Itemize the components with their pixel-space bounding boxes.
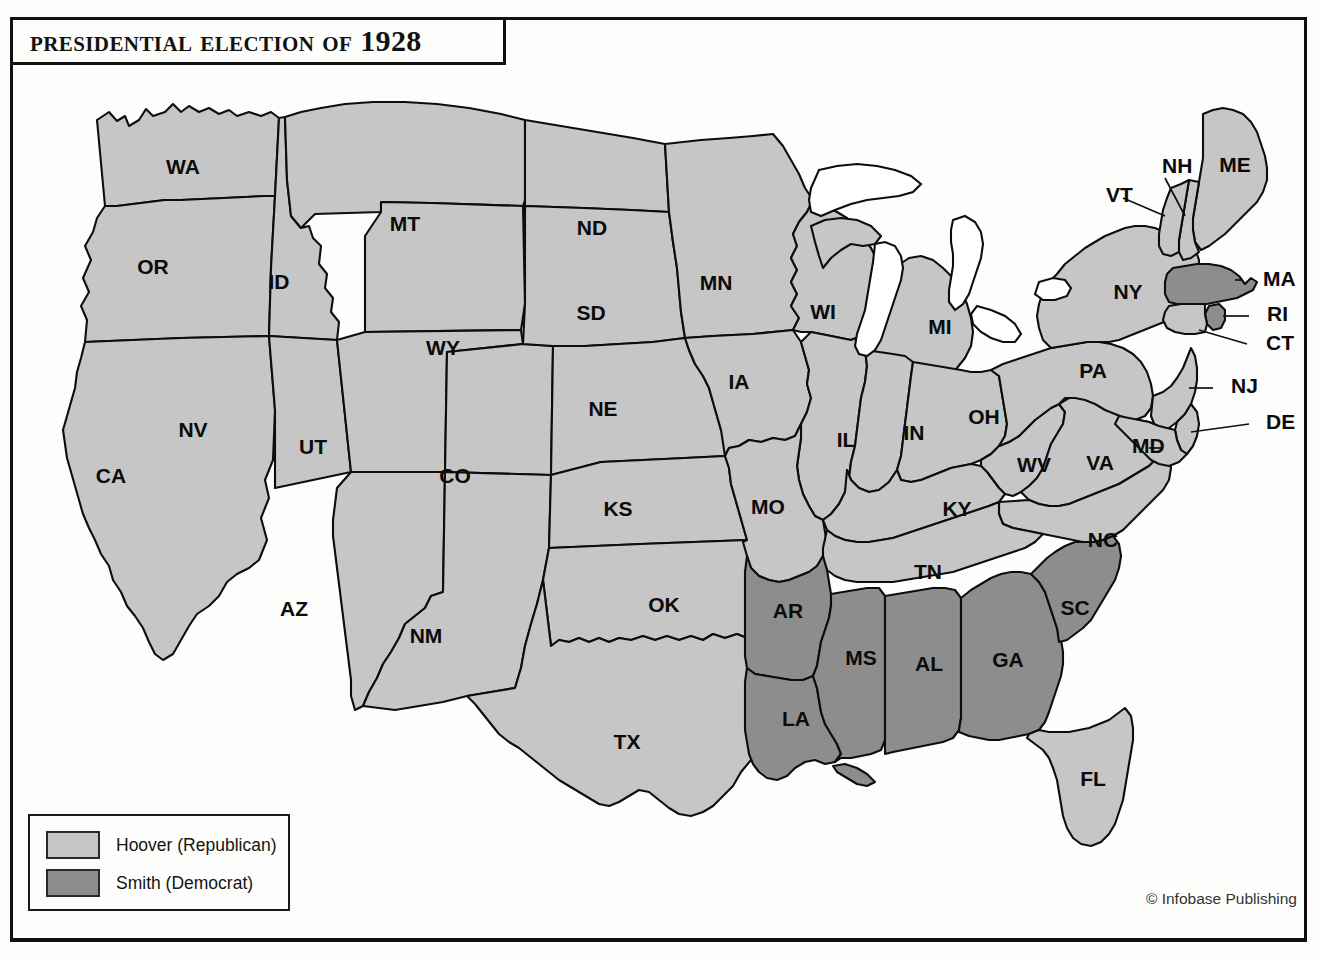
state-label-AR: AR [773,599,803,622]
state-MA[interactable] [1165,264,1257,304]
state-RI[interactable] [1205,304,1225,330]
bottom-rule [13,938,1304,940]
state-label-VA: VA [1086,451,1114,474]
state-label-IL: IL [837,428,856,451]
state-label-WI: WI [810,300,836,323]
state-label-KY: KY [942,497,971,520]
state-label-AZ: AZ [280,597,308,620]
map-page: WAMTNDORIDMNSDWIMINYMEWYNEIAPANVUTCOILIN… [0,0,1321,956]
state-label-WV: WV [1017,453,1051,476]
map-svg: WAMTNDORIDMNSDWIMINYMEWYNEIAPANVUTCOILIN… [13,20,1304,936]
legend-item-smith[interactable]: Smith (Democrat) [46,864,288,902]
state-label-NC: NC [1088,528,1118,551]
state-label-NY: NY [1113,280,1142,303]
callout-label-VT: VT [1106,183,1133,206]
copyright-credit: © Infobase Publishing [1146,890,1297,908]
callout-label-CT: CT [1266,331,1294,354]
state-label-MN: MN [700,271,733,294]
state-label-OK: OK [648,593,680,616]
state-label-MO: MO [751,495,785,518]
state-label-FL: FL [1080,767,1106,790]
state-label-ND: ND [577,216,607,239]
state-label-MS: MS [845,646,877,669]
us-election-map: WAMTNDORIDMNSDWIMINYMEWYNEIAPANVUTCOILIN… [13,20,1304,936]
callout-label-NJ: NJ [1231,374,1258,397]
state-label-ID: ID [269,270,290,293]
legend-swatch-hoover [46,831,100,859]
callout-label-DE: DE [1266,410,1295,433]
state-label-CA: CA [96,464,126,487]
title-plate: Presidential Election of 1928 [10,17,506,65]
state-label-UT: UT [299,435,327,458]
state-label-PA: PA [1079,359,1107,382]
state-CA[interactable] [63,336,275,660]
state-label-ME: ME [1219,153,1251,176]
state-label-NE: NE [588,397,617,420]
lake-ontario [1035,278,1071,300]
callout-label-MD: MD [1132,434,1165,457]
legend-item-hoover[interactable]: Hoover (Republican) [46,826,288,864]
state-label-LA: LA [782,707,810,730]
legend-swatch-smith [46,869,100,897]
state-label-MI: MI [928,315,951,338]
state-label-SC: SC [1060,596,1089,619]
leader-line-CT [1199,330,1247,344]
state-CO[interactable] [445,344,553,475]
page-title: Presidential Election of 1928 [30,24,422,58]
state-KS[interactable] [549,456,747,548]
callout-label-NH: NH [1162,154,1192,177]
state-label-SD: SD [576,301,605,324]
state-label-IN: IN [904,421,925,444]
lake-superior [809,164,921,216]
state-label-MT: MT [390,212,420,235]
lake-huron-erie [949,216,983,310]
map-legend: Hoover (Republican) Smith (Democrat) [28,814,290,911]
state-label-AL: AL [915,652,943,675]
state-label-KS: KS [603,497,632,520]
state-CT[interactable] [1163,304,1207,334]
state-label-OH: OH [968,405,1000,428]
legend-label-hoover: Hoover (Republican) [116,835,277,856]
state-ME[interactable] [1193,108,1267,250]
callout-label-MA: MA [1263,267,1296,290]
state-label-CO: CO [439,464,471,487]
state-label-GA: GA [992,648,1024,671]
state-ND[interactable] [525,120,669,212]
legend-label-smith: Smith (Democrat) [116,873,253,894]
state-label-IA: IA [729,370,750,393]
state-label-NM: NM [410,624,443,647]
state-label-TX: TX [614,730,641,753]
state-label-NV: NV [178,418,207,441]
callout-label-RI: RI [1267,302,1288,325]
state-label-WY: WY [426,336,460,359]
state-OR[interactable] [81,196,275,342]
state-label-TN: TN [914,560,942,583]
state-label-OR: OR [137,255,169,278]
state-label-WA: WA [166,155,200,178]
lake-erie-basin [971,306,1021,342]
